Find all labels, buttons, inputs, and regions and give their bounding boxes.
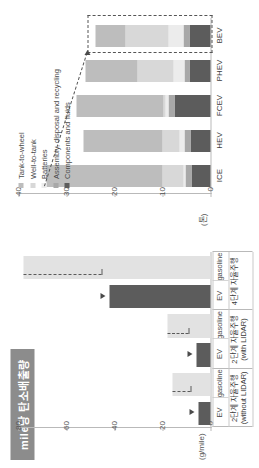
bottom-chart-segment-assembly xyxy=(185,166,191,188)
bottom-chart-category-label: FCEV xyxy=(214,86,223,126)
bottom-chart-segment-components_and_fluids xyxy=(174,96,210,118)
top-chart-bar-2단계자율주행-ev xyxy=(196,343,210,366)
top-chart-cell-divider xyxy=(212,280,228,281)
bottom-chart-segment-assembly xyxy=(184,61,190,83)
legend-swatch xyxy=(18,183,23,188)
top-chart-reduction-connector xyxy=(172,391,190,392)
figure-upright: mile당 탄소배출량 (g/mile) 806040200 EVgasolin… xyxy=(0,0,259,468)
top-chart-group-label: 2단계 자율주행(without LIDAR) xyxy=(230,369,247,427)
top-chart-label-rule xyxy=(228,252,229,427)
top-chart-cell-divider xyxy=(212,339,228,340)
top-chart-group-label-line1: 2단계 자율주행 xyxy=(229,374,238,422)
legend-swatch xyxy=(30,183,35,188)
legend-item: Batteries xyxy=(39,69,48,188)
bottom-chart-segment-components_and_fluids xyxy=(190,131,210,153)
legend-item: Assembly, disposal and recycling xyxy=(51,69,60,188)
top-chart-group-divider xyxy=(212,309,252,310)
bottom-chart-segment-batteries xyxy=(173,61,184,83)
top-chart-series-label: gasoline xyxy=(214,369,223,398)
bottom-chart-category-label: ICE xyxy=(214,156,223,196)
top-chart-reduction-connector xyxy=(188,328,189,334)
top-chart-bar-4단계자율주행-gas xyxy=(23,256,210,279)
top-chart-group-label: 4단계 자율주행 xyxy=(230,252,239,310)
top-chart-series-label: gasoline xyxy=(214,252,223,281)
bottom-chart-segment-components_and_fluids xyxy=(191,166,210,188)
bottom-chart-segment-well_to_tank xyxy=(162,166,184,188)
legend-label: Well-to-tank xyxy=(28,139,37,179)
top-chart-unit-label: (g/mile) xyxy=(196,433,205,460)
bottom-chart-legend: Tank-to-wheelWell-to-tankBatteriesAssemb… xyxy=(16,69,74,188)
top-chart-label-table-edge xyxy=(212,251,252,252)
bottom-chart-category-label: PHEV xyxy=(214,51,223,91)
top-chart-reduction-connector xyxy=(101,269,102,275)
top-chart-bar-2단계자율주행-gas xyxy=(167,314,210,337)
bottom-chart-unit-label: (톤) xyxy=(196,214,207,226)
figure-rotated-wrapper: mile당 탄소배출량 (g/mile) 806040200 EVgasolin… xyxy=(0,0,259,468)
bottom-chart-category-label: BEV xyxy=(214,16,223,56)
top-chart-reduction-connector xyxy=(23,274,101,275)
top-chart-series-label: EV xyxy=(214,281,223,310)
top-chart-series-label: EV xyxy=(214,340,223,369)
top-chart-cell-divider xyxy=(212,397,228,398)
legend-item: Tank-to-wheel xyxy=(16,69,25,188)
legend-swatch xyxy=(64,183,69,188)
top-chart-reduction-connector xyxy=(167,333,188,334)
top-chart-series-label: EV xyxy=(214,398,223,427)
bottom-chart-segment-well_to_tank xyxy=(162,131,179,153)
legend-label: Tank-to-wheel xyxy=(16,132,25,179)
top-chart-group-label: 2단계 자율주행(with LIDAR) xyxy=(230,310,247,368)
bottom-chart-segment-tank_to_wheel xyxy=(83,131,162,153)
bottom-chart-segment-tank_to_wheel xyxy=(85,61,136,83)
bottom-chart-segment-assembly xyxy=(184,131,190,153)
legend-item: Well-to-tank xyxy=(28,69,37,188)
top-chart-group-label-line2: (with LIDAR) xyxy=(238,318,247,361)
top-chart-bar-2단계자율주행-gas xyxy=(172,373,210,396)
top-chart-label-rule xyxy=(212,252,213,427)
top-chart-group-label-line1: 2단계 자율주행 xyxy=(229,315,238,363)
top-chart-series-label: gasoline xyxy=(214,310,223,339)
bev-highlight-box xyxy=(87,16,212,54)
top-chart-reduction-arrow xyxy=(187,351,192,357)
legend-swatch xyxy=(53,183,58,188)
top-chart-plot-area xyxy=(18,252,210,428)
top-chart-bar-2단계자율주행-ev xyxy=(198,402,210,425)
top-chart-label-rule xyxy=(252,252,253,427)
top-chart-reduction-connector xyxy=(190,386,191,392)
bev-highlight-arrow xyxy=(84,51,90,56)
top-chart-reduction-arrow xyxy=(189,409,194,415)
bottom-chart-segment-assembly xyxy=(168,96,174,118)
bottom-chart-segment-tank_to_wheel xyxy=(76,96,164,118)
bottom-chart-segment-well_to_tank xyxy=(137,61,173,83)
bottom-chart-segment-batteries xyxy=(179,131,184,153)
top-chart-group-divider xyxy=(212,368,252,369)
bottom-chart-segment-components_and_fluids xyxy=(189,61,210,83)
lifecycle-emission-chart: (톤) 403020100 ICEHEVFCEVPHEVBEV Tank-to-… xyxy=(0,0,259,234)
top-chart-group-divider xyxy=(212,426,252,427)
top-chart-bar-4단계자율주행-ev xyxy=(109,285,210,308)
top-chart-reduction-arrow xyxy=(100,293,105,299)
top-chart-group-label-line2: (without LIDAR) xyxy=(238,371,247,424)
carbon-emission-per-mile-chart: mile당 탄소배출량 (g/mile) 806040200 EVgasolin… xyxy=(0,234,259,468)
bottom-chart-category-label: HEV xyxy=(214,121,223,161)
top-chart-group-label-line1: 4단계 자율주행 xyxy=(229,257,238,305)
